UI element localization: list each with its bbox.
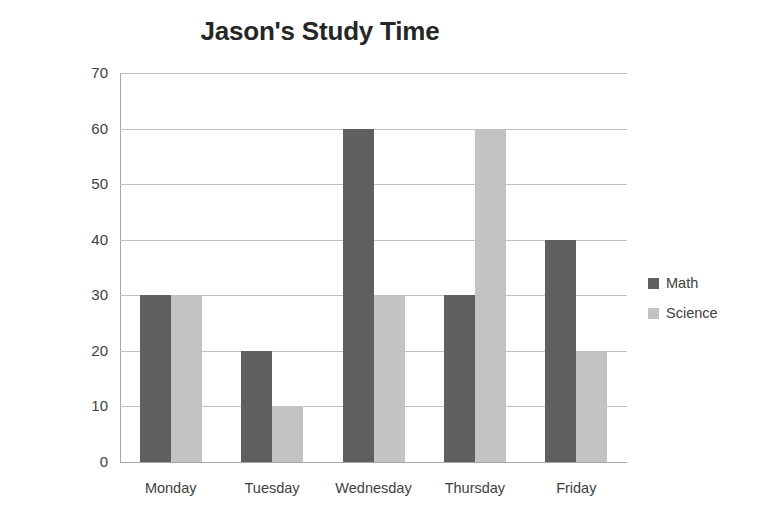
y-axis-tick-label: 0 xyxy=(60,454,108,469)
chart-title: Jason's Study Time xyxy=(0,16,640,47)
y-axis-tick-label: 30 xyxy=(60,287,108,302)
y-axis-line xyxy=(120,73,121,462)
legend-swatch-icon xyxy=(648,308,659,319)
bar-monday-math xyxy=(140,295,171,462)
y-axis-tick-label: 70 xyxy=(60,65,108,80)
bar-monday-science xyxy=(171,295,202,462)
legend: MathScience xyxy=(648,268,773,328)
bar-friday-math xyxy=(545,240,576,462)
bar-tuesday-science xyxy=(272,406,303,462)
x-axis-label-wednesday: Wednesday xyxy=(323,480,424,496)
y-axis-tick-label: 40 xyxy=(60,232,108,247)
gridline xyxy=(120,462,627,463)
gridline xyxy=(120,184,627,185)
bar-thursday-science xyxy=(475,129,506,462)
legend-label: Math xyxy=(666,275,698,291)
x-axis-label-monday: Monday xyxy=(120,480,221,496)
chart-screenshot: Jason's Study Time Study Time (minutes) … xyxy=(0,0,777,527)
bar-friday-science xyxy=(576,351,607,462)
x-axis-label-friday: Friday xyxy=(526,480,627,496)
y-axis-tick-label: 20 xyxy=(60,343,108,358)
y-axis-tick-label: 50 xyxy=(60,176,108,191)
legend-item-science[interactable]: Science xyxy=(648,298,773,328)
legend-swatch-icon xyxy=(648,278,659,289)
bar-wednesday-science xyxy=(374,295,405,462)
plot-area xyxy=(120,73,627,462)
y-axis-tick-label: 60 xyxy=(60,121,108,136)
y-axis-tick-label: 10 xyxy=(60,398,108,413)
bar-tuesday-math xyxy=(241,351,272,462)
gridline xyxy=(120,73,627,74)
bar-wednesday-math xyxy=(343,129,374,462)
legend-item-math[interactable]: Math xyxy=(648,268,773,298)
gridline xyxy=(120,129,627,130)
x-axis-label-thursday: Thursday xyxy=(424,480,525,496)
legend-label: Science xyxy=(666,305,718,321)
bar-thursday-math xyxy=(444,295,475,462)
x-axis-label-tuesday: Tuesday xyxy=(221,480,322,496)
